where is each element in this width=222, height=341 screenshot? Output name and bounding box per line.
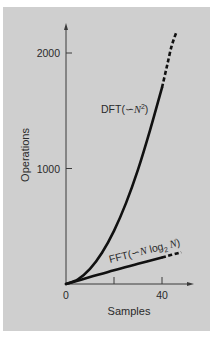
dft-label: DFT(∽N2)	[101, 103, 148, 115]
y-axis-arrow-icon	[64, 23, 68, 30]
dft-curve-extension	[162, 32, 176, 87]
x-tick-label: 40	[156, 289, 168, 301]
y-axis	[64, 23, 68, 284]
chart: 10002000 400 DFT(∽N2) FFT(∽N log2 N) Ope…	[0, 0, 222, 341]
y-axis-label: Operations	[19, 128, 31, 182]
y-ticks: 10002000	[37, 47, 72, 175]
origin-label: 0	[63, 289, 69, 301]
x-axis	[66, 282, 194, 286]
x-axis-label: Samples	[108, 305, 151, 317]
x-axis-arrow-icon	[187, 282, 194, 286]
y-tick-label: 2000	[37, 47, 61, 59]
y-tick-label: 1000	[37, 163, 61, 175]
